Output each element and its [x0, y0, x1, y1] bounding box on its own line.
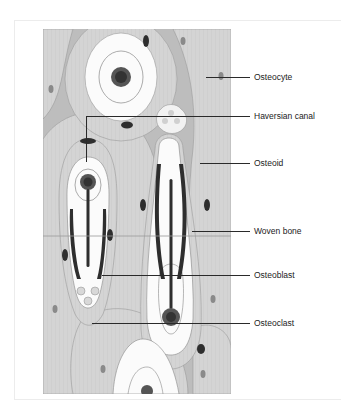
leader-osteoblast [102, 275, 250, 276]
leader-haversian-canal [86, 116, 250, 117]
leader-osteocyte [206, 77, 250, 78]
leader-woven-bone [192, 231, 250, 232]
bone-illustration [43, 29, 231, 394]
label-osteoid: Osteoid [254, 159, 283, 168]
leader-osteoid [200, 163, 250, 164]
leader-haversian-canal-drop [86, 116, 87, 162]
label-osteoclast: Osteoclast [254, 319, 294, 328]
label-osteocyte: Osteocyte [254, 73, 292, 82]
label-haversian-canal: Haversian canal [254, 112, 315, 121]
label-woven-bone: Woven bone [254, 227, 302, 236]
label-osteoblast: Osteoblast [254, 271, 295, 280]
leader-osteoclast [92, 323, 250, 324]
